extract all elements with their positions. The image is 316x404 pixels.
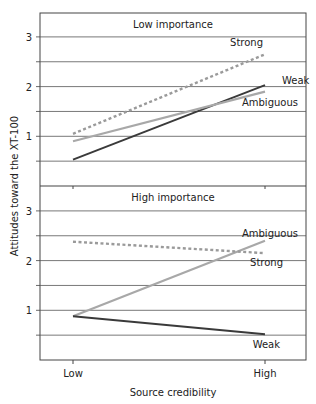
y-tick-label: 3 <box>26 206 32 217</box>
y-tick-label: 1 <box>26 131 32 142</box>
y-axis-label: Attitudes toward the XT-100 <box>9 116 20 256</box>
series-label-strong: Strong <box>250 257 283 268</box>
series-label-strong: Strong <box>230 37 263 48</box>
y-tick-label: 1 <box>26 305 32 316</box>
x-axis-label: Source credibility <box>130 387 217 398</box>
series-label-weak: Weak <box>282 75 310 86</box>
panel-title-high-importance: High importance <box>131 192 214 203</box>
y-tick-label: 2 <box>26 82 32 93</box>
y-tick-label: 3 <box>26 32 32 43</box>
chart: 123123 Low importance High importance Lo… <box>0 0 316 404</box>
x-tick-high: High <box>254 368 277 379</box>
series-label-ambiguous: Ambiguous <box>242 228 298 239</box>
panel-title-low-importance: Low importance <box>133 19 213 30</box>
y-ticks: 123123 <box>26 32 40 335</box>
y-tick-label: 2 <box>26 256 32 267</box>
x-tick-low: Low <box>63 368 83 379</box>
series-label-weak: Weak <box>253 339 281 350</box>
series-label-ambiguous: Ambiguous <box>242 97 298 108</box>
